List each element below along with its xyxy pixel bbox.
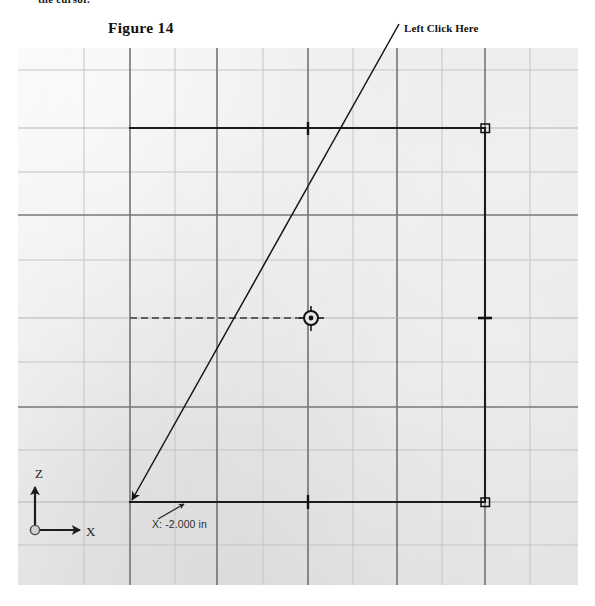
readout-leader-arrow (158, 504, 184, 519)
grid-minor-horizontal (18, 70, 578, 545)
click-leader-arrow (132, 24, 399, 500)
axis-triad (30, 487, 80, 535)
axis-label-x: X (86, 524, 95, 540)
center-mark[interactable] (299, 306, 324, 331)
cad-drawing-canvas[interactable] (0, 0, 595, 606)
axis-label-z: Z (35, 466, 43, 482)
scanned-page: the cursor. Figure 14 Left Click Here (0, 0, 595, 606)
grid-row-guides (18, 128, 578, 502)
coordinate-readout: X: -2.000 in (152, 518, 207, 530)
origin-point-icon (30, 525, 39, 534)
grid-major-horizontal (18, 215, 578, 407)
annotation-layer (132, 24, 399, 519)
center-mark-dot (309, 316, 314, 321)
